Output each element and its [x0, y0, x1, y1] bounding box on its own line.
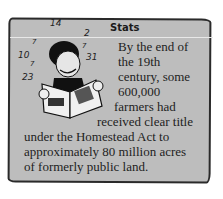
- body-line: century, some: [118, 70, 190, 84]
- svg-text:2: 2: [84, 28, 90, 38]
- svg-text:23: 23: [22, 72, 34, 82]
- body-line: approximately 80 million acres: [24, 145, 186, 159]
- svg-text:14: 14: [50, 18, 62, 28]
- body-line: the 19th: [118, 55, 160, 69]
- svg-text:10: 10: [18, 50, 30, 60]
- body-line: of formerly public land.: [24, 160, 148, 174]
- body-line: farmers had: [114, 100, 176, 114]
- body-line: received clear title: [97, 115, 193, 129]
- svg-text:7: 7: [30, 60, 35, 68]
- svg-text:7: 7: [32, 38, 37, 46]
- body-line: By the end of: [118, 40, 188, 54]
- body-line: 600,000: [118, 85, 160, 99]
- svg-text:7: 7: [82, 42, 87, 50]
- stats-title: Stats: [110, 22, 139, 33]
- boy-reading-icon: 14 7 10 7 23 2 7 31: [12, 14, 112, 124]
- body-line: under the Homestead Act to: [24, 130, 169, 144]
- svg-text:31: 31: [86, 52, 97, 62]
